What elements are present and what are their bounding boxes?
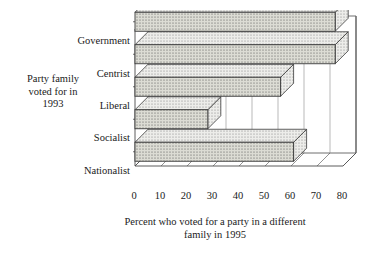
x-tick-label-30: 30 [200,190,224,201]
x-axis-title-line-2: family in 1995 [85,228,345,241]
x-tick-label-10: 10 [148,190,172,201]
x-tick-label-20: 20 [174,190,198,201]
x-tick-label-80: 80 [330,190,354,201]
chart-root: Party family voted for in 1993 Governmen… [0,0,369,253]
x-tick-label-50: 50 [252,190,276,201]
x-axis-title-line-1: Percent who voted for a party in a diffe… [85,215,345,228]
x-tick-label-60: 60 [278,190,302,201]
x-tick-label-70: 70 [304,190,328,201]
x-tick-label-0: 0 [122,190,146,201]
x-axis-title: Percent who voted for a party in a diffe… [85,215,345,241]
x-tick-label-40: 40 [226,190,250,201]
